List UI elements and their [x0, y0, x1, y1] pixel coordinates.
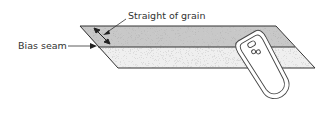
grain-label: Straight of grain [128, 10, 206, 21]
bias-seam-label: Bias seam [18, 40, 67, 51]
bottom-fabric-panel [98, 47, 315, 68]
bias-seam-diagram: Straight of grain Bias seam [0, 0, 326, 121]
bias-seam-arrow-icon [68, 43, 97, 49]
